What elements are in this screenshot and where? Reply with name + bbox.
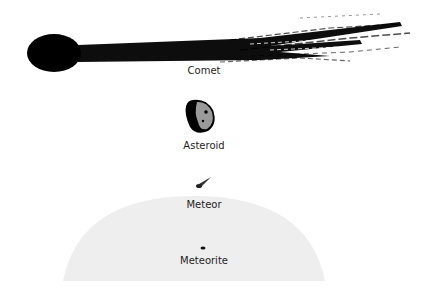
asteroid-label: Asteroid <box>183 140 224 151</box>
meteor-label: Meteor <box>186 199 221 210</box>
asteroid-shape <box>186 100 215 133</box>
meteorite-label: Meteorite <box>180 255 228 266</box>
meteor-shape <box>196 177 211 188</box>
comet-tail <box>78 14 410 62</box>
comet-label: Comet <box>188 65 221 76</box>
meteorite-shape <box>201 247 206 250</box>
comet-head <box>27 34 81 72</box>
